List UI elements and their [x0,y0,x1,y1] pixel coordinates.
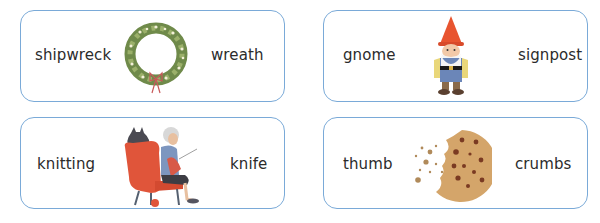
word-card-gnome: gnome signpost [323,10,588,102]
right-word: crumbs [515,155,571,173]
cookie-crumbs-icon [406,126,492,202]
right-word: knife [230,155,267,173]
word-card-cookie: thumb crumbs [323,117,588,209]
wreath-icon [121,16,191,98]
left-word: knitting [37,155,95,173]
left-word: shipwreck [35,46,111,64]
word-card-wreath: shipwreck wreath [20,10,285,102]
right-word: signpost [518,46,582,64]
left-word: gnome [343,46,396,64]
grandma-knitting-icon [121,119,211,209]
gnome-icon [426,14,476,98]
right-word: wreath [211,46,264,64]
left-word: thumb [343,155,393,173]
word-card-knitting: knitting knife [20,117,285,209]
